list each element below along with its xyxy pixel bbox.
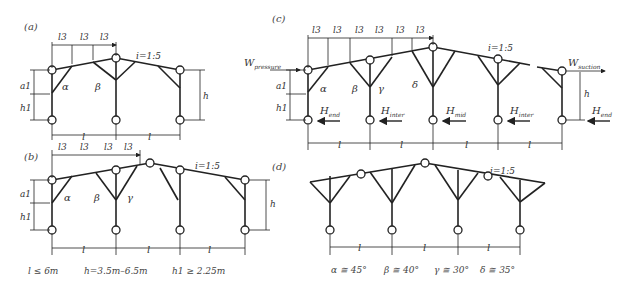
force-h-mid: Hmid [446,106,466,118]
l3-label: l3 [104,143,113,152]
l3-label: l3 [58,33,67,42]
caption-height-range: h=3.5m–6.5m [84,267,148,276]
l3-label: l3 [80,143,89,152]
l3-label: l3 [312,26,321,35]
span-label: l [358,243,361,253]
h-label: h [203,92,209,101]
l3-label: l3 [396,26,405,35]
l3-label: l3 [416,26,425,35]
angle-alpha: α [64,193,71,203]
l3-label: l3 [124,143,133,152]
l3-label: l3 [80,33,89,42]
h-label: h [270,200,276,209]
force-h-inter: Hinter [381,106,404,118]
wind-suction-label: Wsuction [568,58,600,70]
l3-label: l3 [355,26,364,35]
wind-pressure-label: Wpressure [244,58,281,70]
panel-label-d: (d) [272,162,286,172]
panel-label-a: (a) [24,22,38,32]
span-label: l [400,140,403,150]
l3-label: l3 [58,143,67,152]
caption-span-limit: l ≤ 6m [28,267,58,276]
slope-label: i=1:5 [136,52,161,61]
a1-label: a1 [20,190,31,199]
force-h-end: Hend [592,106,612,118]
angle-delta: δ [412,80,418,90]
span-label: l [148,132,151,142]
angle-gamma: γ [378,84,384,94]
span-label: l [487,243,490,253]
angle-alpha: α [320,84,327,94]
force-h-inter: Hinter [510,106,533,118]
h1-label: h1 [20,104,32,113]
slope-label: i=1:5 [488,44,513,53]
span-label: l [82,245,85,255]
a1-label: a1 [276,82,287,91]
l3-label: l3 [375,26,384,35]
span-label: l [82,132,85,142]
a1-label: a1 [20,82,31,91]
h1-label: h1 [20,213,32,222]
caption-delta: δ ≅ 35° [480,266,515,275]
angle-beta: β [95,82,101,92]
caption-alpha: α ≅ 45° [331,266,367,275]
slope-label: i=1:5 [195,162,220,171]
span-label: l [423,243,426,253]
panel-a-frame [52,58,180,120]
angle-beta: β [352,84,358,94]
caption-beta: β ≅ 40° [384,266,419,275]
span-label: l [465,140,468,150]
force-h-end: Hend [320,106,340,118]
angle-gamma: γ [127,193,133,203]
caption-h1-min: h1 ≥ 2.25m [172,267,225,276]
caption-gamma: γ ≅ 30° [434,266,469,275]
panel-label-b: (b) [24,152,38,162]
span-label: l [528,140,531,150]
angle-alpha: α [62,82,69,92]
l3-label: l3 [333,26,342,35]
angle-beta: β [94,193,100,203]
l3-label: l3 [100,33,109,42]
span-label: l [208,245,211,255]
span-label: l [147,245,150,255]
diagram-canvas [0,0,628,296]
h-label: h [584,90,590,99]
panel-label-c: (c) [272,14,285,24]
slope-label: i=1:5 [490,167,515,176]
panel-b-frame [52,163,245,230]
span-label: l [338,140,341,150]
h1-label: h1 [276,104,288,113]
